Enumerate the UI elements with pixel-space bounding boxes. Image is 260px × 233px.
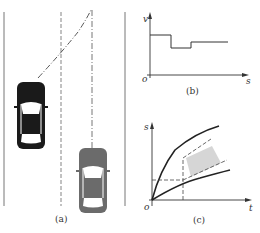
figure: (a) v o s (b) s o t (c) [0,0,260,233]
panel-a: (a) [4,10,125,224]
gray-car [76,148,110,213]
c-y-arrow-icon [150,122,154,129]
panel-b: v o s (b) [142,12,251,96]
b-velocity-profile [150,35,228,48]
b-y-label: v [143,14,148,24]
c-x-label: t [249,203,253,213]
lane-change-trajectory [38,10,91,78]
caption-b: (b) [186,86,199,96]
c-x-arrow-icon [245,198,252,202]
c-origin-label: o [144,202,150,212]
caption-c: (c) [193,215,205,225]
caption-a: (a) [55,214,67,224]
b-x-label: s [246,76,251,86]
b-origin-label: o [142,74,148,84]
b-y-arrow-icon [148,12,152,19]
c-y-label: s [144,122,149,132]
black-car [14,82,48,149]
panel-c: s o t (c) [144,122,253,225]
c-shaded-region [186,146,221,177]
